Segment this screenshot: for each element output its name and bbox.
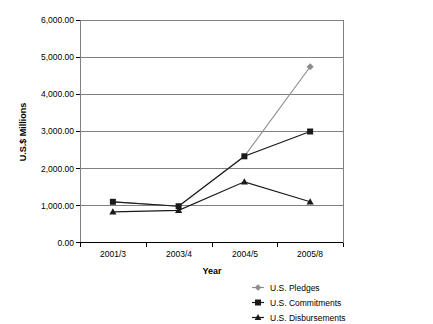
y-axis-tick-labels: 6,000.00 5,000.00 4,000.00 3,000.00 2,00… — [41, 15, 74, 248]
series-u-s-disbursements — [109, 178, 313, 214]
y-tick-label: 1,000.00 — [41, 201, 74, 211]
y-tick-label: 0.00 — [57, 238, 74, 248]
y-tick-label: 5,000.00 — [41, 52, 74, 62]
gridlines — [80, 21, 343, 206]
x-tick-label: 2004/5 — [232, 249, 258, 259]
legend-item-disbursements[interactable]: U.S. Disbursements — [252, 313, 346, 323]
x-tick-label: 2001/3 — [100, 249, 126, 259]
x-axis-title: Year — [202, 266, 222, 276]
x-tick-label: 2005/8 — [297, 249, 323, 259]
series-u-s-pledges — [113, 63, 314, 206]
square-icon — [255, 300, 261, 306]
y-tick-label: 3,000.00 — [41, 126, 74, 136]
y-axis-title: U.S.$ Millions — [18, 103, 28, 162]
diamond-icon — [255, 284, 261, 291]
legend-label: U.S. Pledges — [270, 283, 320, 293]
legend-item-pledges[interactable]: U.S. Pledges — [252, 283, 320, 293]
legend-item-commitments[interactable]: U.S. Commitments — [252, 298, 341, 308]
x-axis-tick-labels: 2001/3 2003/4 2004/5 2005/8 — [100, 249, 323, 259]
square-marker — [307, 129, 313, 135]
x-tick-label: 2003/4 — [166, 249, 192, 259]
chart-container: U.S.$ Millions 6,000.00 5,000.00 4,000.0… — [0, 0, 433, 324]
series-layer — [109, 63, 313, 214]
y-axis-ticks — [76, 21, 80, 243]
y-tick-label: 6,000.00 — [41, 15, 74, 25]
legend-label: U.S. Commitments — [270, 298, 341, 308]
legend-label: U.S. Disbursements — [270, 313, 346, 323]
y-tick-label: 2,000.00 — [41, 164, 74, 174]
triangle-marker — [241, 178, 248, 184]
chart-legend: U.S. Pledges U.S. Commitments U.S. Disbu… — [252, 283, 346, 323]
y-tick-label: 4,000.00 — [41, 89, 74, 99]
square-marker — [241, 153, 247, 159]
line-chart: U.S.$ Millions 6,000.00 5,000.00 4,000.0… — [0, 0, 433, 324]
series-line — [113, 67, 310, 206]
series-line — [113, 182, 310, 212]
square-marker — [110, 199, 116, 205]
x-axis-ticks — [81, 243, 344, 247]
